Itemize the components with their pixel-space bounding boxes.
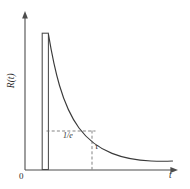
tau-label: τ (95, 142, 98, 151)
plot-canvas (0, 0, 190, 189)
one-over-e-label: 1/e (62, 132, 74, 140)
impulse-pulse-rect (42, 33, 48, 169)
y-axis-label: R(t) (7, 73, 17, 88)
decay-figure: R(t) 0 t 1/e τ (0, 0, 190, 189)
origin-tick-label: 0 (19, 172, 24, 181)
y-axis (22, 11, 28, 170)
decay-curve (49, 35, 173, 162)
x-axis-label: t (169, 171, 172, 181)
